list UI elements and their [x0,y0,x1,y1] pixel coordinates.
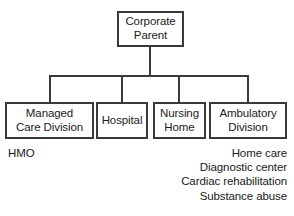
caption-item: Diagnostic center [181,160,287,174]
connector-horizontal-bus [49,75,249,77]
caption-item: Home care [181,146,287,160]
caption-item: HMO [8,146,35,160]
connector-root-stem [149,46,151,77]
caption-list-managed-care: HMO [8,146,35,160]
org-chart-canvas: Corporate Parent Managed Care Division H… [0,0,294,216]
org-node-nursing-home: Nursing Home [153,102,206,139]
connector-drop-hospital [121,75,123,103]
org-node-ambulatory-division: Ambulatory Division [209,102,287,139]
org-node-hospital: Hospital [96,102,148,139]
connector-drop-managed-care [49,75,51,103]
caption-list-ambulatory: Home care Diagnostic center Cardiac reha… [181,146,287,203]
connector-drop-nursing-home [178,75,180,103]
caption-item: Substance abuse [181,189,287,203]
connector-drop-ambulatory [247,75,249,103]
caption-item: Cardiac rehabilitation [181,174,287,188]
org-node-managed-care-division: Managed Care Division [5,102,94,139]
org-node-corporate-parent: Corporate Parent [117,11,184,47]
